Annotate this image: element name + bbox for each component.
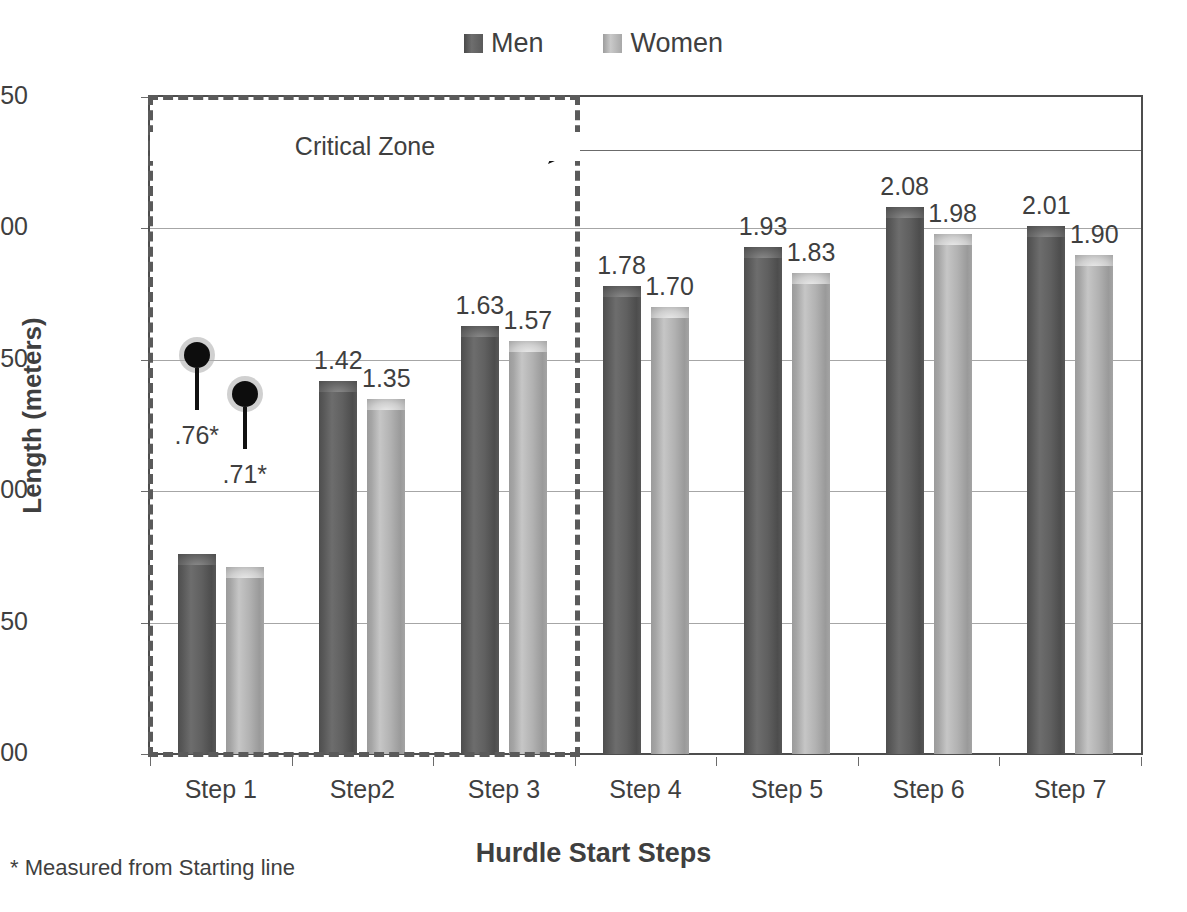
- bar-value-label: 1.93: [739, 212, 788, 241]
- bar-cap: [178, 554, 216, 565]
- chart-legend: Men Women: [0, 30, 1187, 57]
- bar-slot: 1.35: [367, 97, 405, 754]
- bar-group-step-5: 1.931.83: [716, 97, 858, 754]
- bar-value-label: 1.90: [1070, 220, 1119, 249]
- bar-group-step-1: .76*.71*: [150, 97, 292, 754]
- x-tick-mark: [1141, 757, 1142, 766]
- bar-value-label: .76*: [175, 421, 219, 450]
- men-swatch-icon: [464, 34, 483, 53]
- bar-value-label: 1.35: [362, 364, 411, 393]
- bar-groups: .76*.71*1.421.351.631.571.781.701.931.83…: [150, 97, 1141, 754]
- bar-cap: [603, 286, 641, 297]
- bar-women-step-3[interactable]: 1.57: [509, 341, 547, 754]
- bar-slot: 1.63: [461, 97, 499, 754]
- bar-group-step-3: 1.631.57: [433, 97, 575, 754]
- callout-dot-icon: [232, 381, 258, 407]
- legend-item-men: Men: [464, 30, 544, 57]
- bar-group-step2: 1.421.35: [292, 97, 434, 754]
- bar-women-step-5[interactable]: 1.83: [792, 273, 830, 754]
- critical-zone-label: Critical Zone: [150, 132, 580, 161]
- bar-slot: 2.01: [1027, 97, 1065, 754]
- chart-footnote: * Measured from Starting line: [10, 855, 295, 881]
- bar-cap: [461, 326, 499, 337]
- bar-slot: 1.57: [509, 97, 547, 754]
- bar-cap: [367, 399, 405, 410]
- bar-cap: [886, 207, 924, 218]
- bar-men-step-4[interactable]: 1.78: [603, 286, 641, 754]
- bar-slot: 1.78: [603, 97, 641, 754]
- bar-value-label: 1.63: [456, 291, 505, 320]
- bar-group-step-7: 2.011.90: [999, 97, 1141, 754]
- bar-women-step-1[interactable]: .71*: [226, 567, 264, 754]
- step1-callout-men: [184, 342, 210, 410]
- step1-callout-women: [232, 381, 258, 449]
- y-tick-label: 1.00: [0, 475, 28, 504]
- bar-value-label: 1.83: [787, 238, 836, 267]
- bar-men-step-3[interactable]: 1.63: [461, 326, 499, 754]
- callout-stem: [243, 407, 247, 449]
- bar-cap: [1027, 226, 1065, 237]
- bar-slot: 1.42: [319, 97, 357, 754]
- bar-cap: [319, 381, 357, 392]
- bar-slot: 1.98: [934, 97, 972, 754]
- bar-cap: [744, 247, 782, 258]
- bar-slot: 1.83: [792, 97, 830, 754]
- x-tick-mark: [292, 757, 293, 766]
- x-tick-label-step-3: Step 3: [433, 775, 575, 804]
- bar-value-label: 1.70: [645, 272, 694, 301]
- bar-value-label: 1.98: [928, 199, 977, 228]
- y-tick-label: 2.50: [0, 81, 28, 110]
- x-tick-label-step-7: Step 7: [999, 775, 1141, 804]
- women-swatch-icon: [603, 34, 622, 53]
- bar-men-step-1[interactable]: .76*: [178, 554, 216, 754]
- x-tick-mark: [433, 757, 434, 766]
- x-tick-label-step-6: Step 6: [858, 775, 1000, 804]
- y-tick-label: 0.00: [0, 738, 28, 767]
- x-tick-mark: [150, 757, 151, 766]
- bar-cap: [651, 307, 689, 318]
- bar-value-label: 1.42: [314, 346, 363, 375]
- y-tick-label: 2.00: [0, 212, 28, 241]
- bar-cap: [934, 234, 972, 245]
- bar-value-label: 2.01: [1022, 191, 1071, 220]
- bar-value-label: 1.57: [504, 306, 553, 335]
- x-tick-mark: [858, 757, 859, 766]
- bar-men-step-6[interactable]: 2.08: [886, 207, 924, 754]
- bar-slot: .76*: [178, 97, 216, 754]
- x-tick-label-step-5: Step 5: [716, 775, 858, 804]
- callout-dot-icon: [184, 342, 210, 368]
- bar-women-step-7[interactable]: 1.90: [1075, 255, 1113, 754]
- bar-slot: 2.08: [886, 97, 924, 754]
- legend-label-women: Women: [630, 30, 723, 57]
- bar-cap: [792, 273, 830, 284]
- x-tick-mark: [575, 757, 576, 766]
- legend-item-women: Women: [603, 30, 723, 57]
- x-tick-label-step-4: Step 4: [575, 775, 717, 804]
- bar-cap: [509, 341, 547, 352]
- y-tick-label: 0.50: [0, 607, 28, 636]
- bar-women-step-4[interactable]: 1.70: [651, 307, 689, 754]
- bar-value-label: 1.78: [597, 251, 646, 280]
- bar-cap: [1075, 255, 1113, 266]
- bar-value-label: .71*: [223, 460, 267, 489]
- legend-label-men: Men: [491, 30, 544, 57]
- bar-group-step-4: 1.781.70: [575, 97, 717, 754]
- x-tick-mark: [716, 757, 717, 766]
- x-tick-label-step-1: Step 1: [150, 775, 292, 804]
- bar-slot: 1.90: [1075, 97, 1113, 754]
- bar-slot: 1.93: [744, 97, 782, 754]
- bar-women-step2[interactable]: 1.35: [367, 399, 405, 754]
- callout-stem: [195, 368, 199, 410]
- bar-cap: [226, 567, 264, 578]
- bar-men-step-7[interactable]: 2.01: [1027, 226, 1065, 754]
- bar-women-step-6[interactable]: 1.98: [934, 234, 972, 754]
- critical-zone-text: Critical Zone: [287, 132, 443, 160]
- bar-value-label: 2.08: [880, 172, 929, 201]
- y-tick-label: 1.50: [0, 344, 28, 373]
- bar-slot: 1.70: [651, 97, 689, 754]
- x-tick-mark: [999, 757, 1000, 766]
- bar-group-step-6: 2.081.98: [858, 97, 1000, 754]
- bar-slot: .71*: [226, 97, 264, 754]
- bar-men-step-5[interactable]: 1.93: [744, 247, 782, 754]
- bar-men-step2[interactable]: 1.42: [319, 381, 357, 754]
